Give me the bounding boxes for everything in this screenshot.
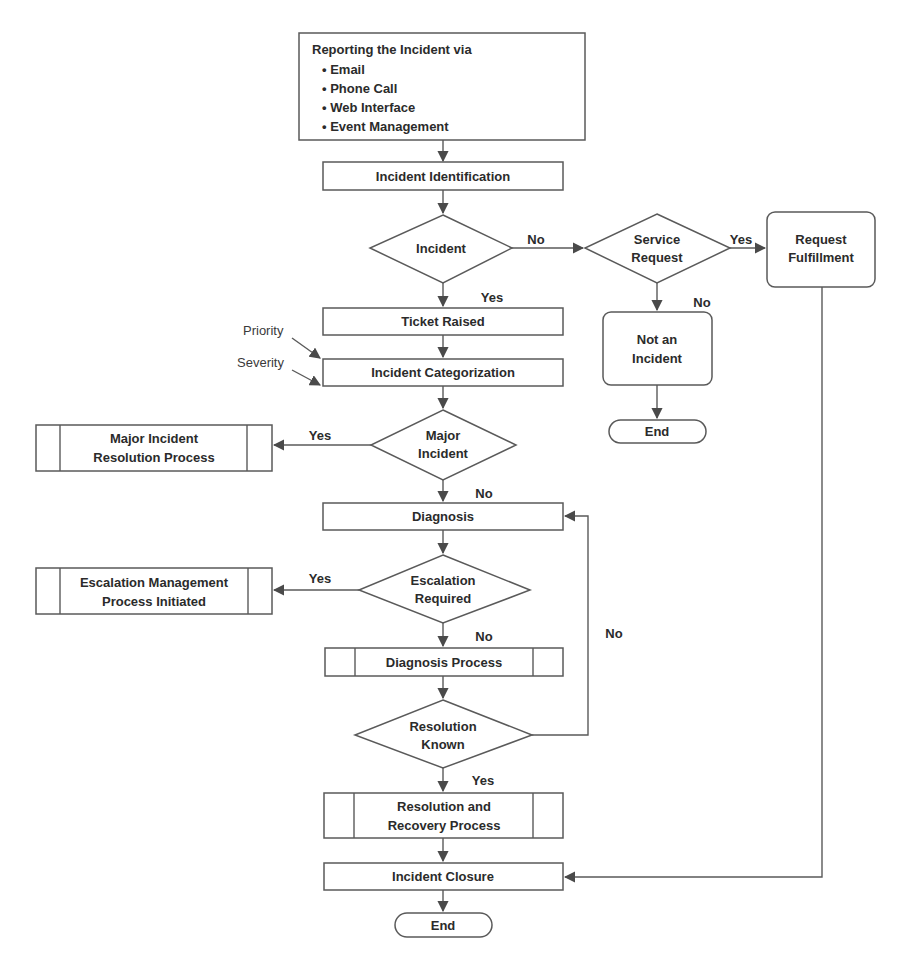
process-resolution-recovery: Resolution and Recovery Process (324, 793, 563, 838)
severity-note: Severity (237, 355, 284, 370)
terminator-end-main: End (395, 913, 492, 937)
decision-escalation-required: Escalation Required (359, 555, 530, 623)
node-request-fulfillment: Request Fulfillment (767, 212, 875, 287)
service-request-line2: Request (631, 250, 683, 265)
edge-label-resolution-no: No (605, 626, 622, 641)
process-escalation-management: Escalation Management Process Initiated (36, 568, 272, 614)
reporting-item-phone: • Phone Call (322, 81, 397, 96)
recovery-line1: Resolution and (397, 799, 491, 814)
escalation-process-line2: Process Initiated (102, 594, 206, 609)
edge-label-major-yes: Yes (309, 428, 331, 443)
process-major-incident-resolution: Major Incident Resolution Process (36, 425, 272, 471)
node-not-an-incident: Not an Incident (603, 312, 712, 385)
ticket-raised-label: Ticket Raised (401, 314, 485, 329)
edge-label-service-yes: Yes (730, 232, 752, 247)
edge-label-incident-no: No (527, 232, 544, 247)
end-main-label: End (431, 918, 456, 933)
escalation-decision-line2: Required (415, 591, 471, 606)
diagnosis-process-label: Diagnosis Process (386, 655, 502, 670)
node-diagnosis: Diagnosis (323, 503, 563, 530)
categorization-label: Incident Categorization (371, 365, 515, 380)
reporting-item-event: • Event Management (322, 119, 449, 134)
fulfillment-line1: Request (795, 232, 847, 247)
incident-management-flowchart: Reporting the Incident via • Email • Pho… (0, 0, 901, 967)
fulfillment-line2: Fulfillment (788, 250, 854, 265)
recovery-line2: Recovery Process (388, 818, 501, 833)
major-process-line2: Resolution Process (93, 450, 214, 465)
terminator-end-right: End (609, 420, 706, 443)
not-incident-line2: Incident (632, 351, 683, 366)
not-incident-line1: Not an (637, 332, 678, 347)
node-incident-categorization: Incident Categorization (323, 359, 563, 386)
edge-label-resolution-yes: Yes (472, 773, 494, 788)
reporting-item-email: • Email (322, 62, 365, 77)
decision-service-request: Service Request (585, 214, 730, 283)
edge-label-incident-yes: Yes (481, 290, 503, 305)
escalation-decision-line1: Escalation (410, 573, 475, 588)
arrow-severity (292, 370, 320, 385)
edge-label-escalation-no: No (475, 629, 492, 644)
node-incident-identification: Incident Identification (323, 162, 563, 190)
incident-decision-label: Incident (416, 241, 467, 256)
identification-label: Incident Identification (376, 169, 510, 184)
arrow-resolution-no-loop (532, 516, 588, 735)
resolution-decision-line2: Known (421, 737, 464, 752)
diagnosis-label: Diagnosis (412, 509, 474, 524)
edge-label-service-no: No (693, 295, 710, 310)
resolution-decision-line1: Resolution (409, 719, 476, 734)
major-process-line1: Major Incident (110, 431, 199, 446)
reporting-item-web: • Web Interface (322, 100, 415, 115)
service-request-line1: Service (634, 232, 680, 247)
end-right-label: End (645, 424, 670, 439)
reporting-title: Reporting the Incident via (312, 42, 472, 57)
decision-incident: Incident (370, 215, 512, 283)
decision-major-incident: Major Incident (371, 410, 516, 480)
escalation-process-line1: Escalation Management (80, 575, 229, 590)
priority-note: Priority (243, 323, 284, 338)
node-reporting: Reporting the Incident via • Email • Pho… (299, 33, 585, 140)
edge-label-major-no: No (475, 486, 492, 501)
major-decision-line2: Incident (418, 446, 469, 461)
major-decision-line1: Major (426, 428, 461, 443)
decision-resolution-known: Resolution Known (355, 700, 532, 768)
edge-label-escalation-yes: Yes (309, 571, 331, 586)
closure-label: Incident Closure (392, 869, 494, 884)
arrow-priority (292, 338, 320, 358)
node-incident-closure: Incident Closure (324, 863, 563, 890)
process-diagnosis: Diagnosis Process (325, 648, 563, 676)
node-ticket-raised: Ticket Raised (323, 308, 563, 335)
